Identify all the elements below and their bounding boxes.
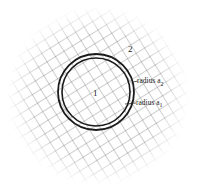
radius-a1-sub: 1 xyxy=(160,102,163,108)
radius-a2-sub: 2 xyxy=(161,81,164,87)
grid-region xyxy=(0,0,197,195)
region-label-2: 2 xyxy=(128,44,133,54)
region-label-1: 1 xyxy=(93,88,98,98)
radius-a2-text: radius a xyxy=(137,76,161,85)
radius-a1-text: radius a xyxy=(136,98,160,107)
radius-a1-label: radius a1 xyxy=(136,98,163,108)
diagram-canvas: 1 2 radius a2 radius a1 xyxy=(0,0,197,195)
